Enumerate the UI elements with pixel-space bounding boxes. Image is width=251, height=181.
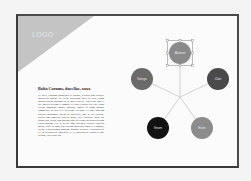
resize-handle[interactable]: [192, 40, 194, 42]
resize-handle[interactable]: [167, 52, 169, 54]
resize-handle[interactable]: [179, 65, 181, 67]
resize-handle[interactable]: [167, 40, 169, 42]
slide-canvas[interactable]: LOGO Balta Carums, ducellae, xxxx Ut ape…: [16, 14, 239, 168]
resize-handle[interactable]: [179, 40, 181, 42]
diagram-node-bottom-left[interactable]: Itnum: [147, 117, 169, 139]
resize-handle[interactable]: [192, 65, 194, 67]
node-label: Eium: [198, 126, 206, 130]
node-label: Aliatum: [175, 51, 186, 55]
diagram-node-left[interactable]: Dengu: [131, 68, 153, 90]
node-label: Clan: [215, 77, 222, 81]
resize-handle[interactable]: [167, 65, 169, 67]
diagram-node-bottom-right[interactable]: Eium: [191, 117, 213, 139]
node-label: Itnum: [154, 126, 162, 130]
diagram-node-top[interactable]: Aliatum: [167, 40, 194, 67]
node-label: Dengu: [137, 77, 147, 81]
diagram-node-right[interactable]: Clan: [207, 68, 229, 90]
resize-handle[interactable]: [192, 52, 194, 54]
radial-diagram: AliatumDenguClanItnumEium: [18, 16, 237, 166]
